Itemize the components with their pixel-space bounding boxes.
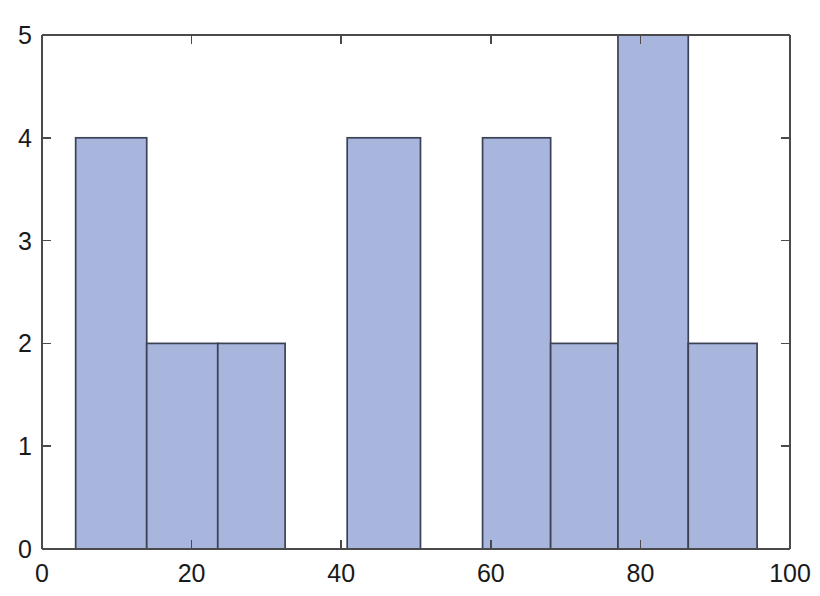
x-tick-label: 60: [477, 559, 505, 587]
x-tick-label: 40: [327, 559, 355, 587]
y-tick-label: 5: [18, 21, 32, 49]
x-tick-label: 0: [35, 559, 49, 587]
histogram-bar[interactable]: [347, 138, 420, 549]
histogram-bar[interactable]: [76, 138, 147, 549]
histogram-bar[interactable]: [483, 138, 551, 549]
y-tick-label: 1: [18, 432, 32, 460]
plot-area: 012345020406080100: [0, 0, 820, 596]
x-tick-label: 20: [178, 559, 206, 587]
histogram-figure: 012345020406080100: [0, 0, 820, 596]
y-tick-label: 3: [18, 227, 32, 255]
y-tick-label: 2: [18, 329, 32, 357]
histogram-bar[interactable]: [618, 35, 688, 549]
y-tick-label: 0: [18, 535, 32, 563]
x-tick-label: 100: [769, 559, 811, 587]
histogram-bar[interactable]: [551, 343, 618, 549]
histogram-bar[interactable]: [688, 343, 757, 549]
y-tick-label: 4: [18, 124, 32, 152]
x-tick-label: 80: [626, 559, 654, 587]
histogram-bar[interactable]: [218, 343, 285, 549]
histogram-bar[interactable]: [147, 343, 218, 549]
bars-group: [76, 35, 757, 549]
